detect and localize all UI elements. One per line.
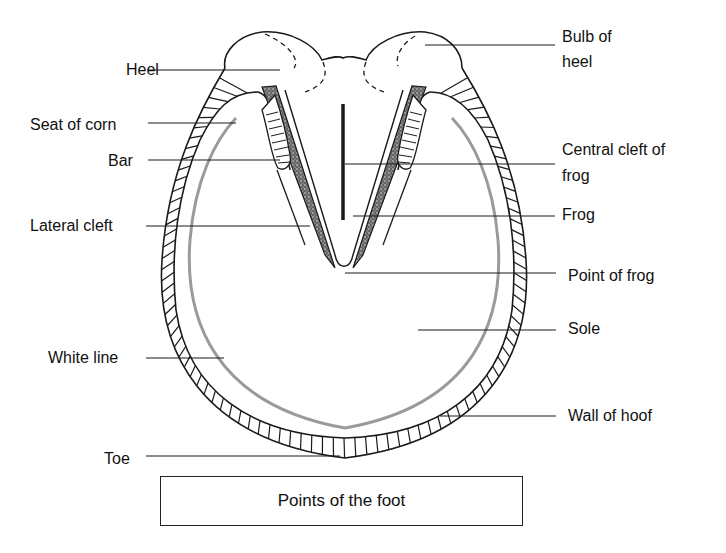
caption-text: Points of the foot xyxy=(278,491,406,511)
hoof-diagram: Heel Seat of corn Bar Lateral cleft Whit… xyxy=(0,0,726,553)
label-bar: Bar xyxy=(108,149,133,173)
label-central-cleft-1: Central cleft of xyxy=(562,138,665,162)
label-sole: Sole xyxy=(568,317,600,341)
label-seat-of-corn: Seat of corn xyxy=(30,113,116,137)
label-central-cleft-2: frog xyxy=(562,164,590,188)
label-heel: Heel xyxy=(126,58,159,82)
leader-lines xyxy=(146,45,556,456)
label-lateral-cleft: Lateral cleft xyxy=(30,214,113,238)
label-bulb-of-heel-2: heel xyxy=(562,50,592,74)
label-bulb-of-heel-1: Bulb of xyxy=(562,25,612,49)
frog xyxy=(262,86,426,268)
heel-bulbs xyxy=(225,32,462,68)
label-frog: Frog xyxy=(562,203,595,227)
label-toe: Toe xyxy=(104,447,130,471)
figure-caption: Points of the foot xyxy=(160,476,523,526)
label-white-line: White line xyxy=(48,346,118,370)
label-wall-of-hoof: Wall of hoof xyxy=(568,404,652,428)
label-point-of-frog: Point of frog xyxy=(568,264,654,288)
